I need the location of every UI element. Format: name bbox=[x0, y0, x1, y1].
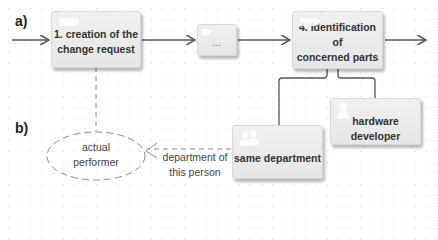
performer-line2: performer bbox=[56, 155, 136, 170]
role-hardware-developer[interactable]: hardware developer bbox=[330, 98, 421, 145]
connector-step4-to-same-department bbox=[279, 69, 327, 125]
section-label-a: a) bbox=[15, 13, 27, 29]
process-icon bbox=[299, 16, 323, 28]
role-same-department[interactable]: same department bbox=[232, 125, 323, 179]
process-icon bbox=[58, 16, 82, 28]
process-icon bbox=[201, 28, 213, 36]
edge-label-line2: this person bbox=[155, 165, 235, 180]
edge-label-department: department of this person bbox=[155, 150, 235, 180]
process-step-1[interactable]: 1. creation of the change request bbox=[51, 11, 141, 68]
step1-line2: change request bbox=[54, 42, 138, 57]
person-icon bbox=[336, 102, 350, 120]
process-step-ellipsis[interactable]: ... bbox=[197, 24, 237, 56]
performer-line1: actual bbox=[56, 140, 136, 155]
performer-label: actual performer bbox=[56, 140, 136, 170]
connector-step4-to-hardware-developer bbox=[338, 69, 375, 98]
ellipsis-label: ... bbox=[213, 31, 221, 50]
edge-label-line1: department of bbox=[155, 150, 235, 165]
step1-line1: 1. creation of the bbox=[54, 27, 138, 42]
group-icon bbox=[238, 129, 260, 147]
step4-line2: concerned parts bbox=[293, 50, 382, 65]
section-label-b: b) bbox=[15, 120, 28, 136]
process-step-4[interactable]: 4. identification of concerned parts bbox=[292, 11, 383, 69]
